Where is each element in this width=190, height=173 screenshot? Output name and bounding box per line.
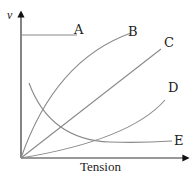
curve-d-label: D [168, 80, 178, 95]
velocity-tension-graph: v A B C D E Tension [0, 0, 190, 173]
y-axis-label: v [7, 8, 13, 22]
curve-b-label: B [128, 24, 138, 39]
curve-c-label: C [164, 35, 174, 50]
curve-b [21, 33, 131, 158]
x-axis-label: Tension [80, 159, 121, 173]
curve-a-label: A [73, 22, 84, 37]
curve-e-label: E [174, 133, 184, 148]
